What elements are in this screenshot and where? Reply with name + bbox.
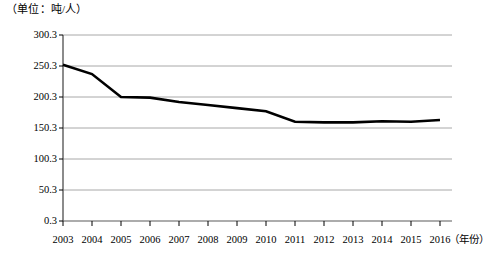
- chart-plot-area: [0, 0, 489, 258]
- x-axis-ticks: [63, 221, 440, 226]
- data-series-line: [63, 65, 440, 123]
- line-chart: （单位：吨/人） 0.350.3100.3150.3200.3250.3300.…: [0, 0, 489, 258]
- gridlines: [63, 35, 452, 190]
- x-axis-title: （年份）: [449, 233, 489, 246]
